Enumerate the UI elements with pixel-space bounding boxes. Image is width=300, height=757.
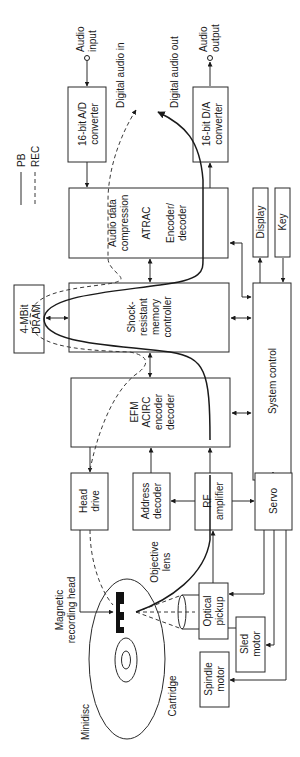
da-converter-block: 16-bit D/A converter <box>193 87 228 162</box>
audio-output-label-2: output <box>210 24 221 52</box>
svg-text:Address: Address <box>140 483 151 520</box>
objective-lens-icon <box>136 595 199 629</box>
svg-text:drive: drive <box>90 490 101 512</box>
head-drive-block: Head drive <box>71 473 108 530</box>
output-jack-icon <box>208 56 213 61</box>
display-block: Display <box>253 188 268 257</box>
key-block: Key <box>275 188 290 257</box>
svg-text:16-bit D/A: 16-bit D/A <box>201 101 212 146</box>
objective-lens-label-1: Objective <box>149 541 160 583</box>
svg-text:resistant: resistant <box>138 298 149 336</box>
svg-text:16-bit A/D: 16-bit A/D <box>77 102 88 146</box>
minidisc-label: Minidisc <box>80 704 91 740</box>
minidisc-block-diagram: PB REC Audio input Audio output Digital … <box>0 0 300 757</box>
objective-lens-label-2: lens <box>161 553 172 571</box>
svg-text:Servo: Servo <box>268 488 279 515</box>
servo-block: Servo <box>255 473 292 530</box>
rec-head-path <box>90 530 113 605</box>
svg-text:converter: converter <box>213 102 224 144</box>
memory-controller-block: Shock- resistant memory controller <box>69 283 229 352</box>
svg-text:compression: compression <box>119 195 130 252</box>
svg-text:decoder: decoder <box>177 204 188 241</box>
svg-text:controller: controller <box>162 296 173 338</box>
svg-text:pickup: pickup <box>214 596 225 625</box>
system-control-block: System control <box>253 283 291 480</box>
svg-text:RF: RF <box>202 494 213 507</box>
svg-text:Shock-: Shock- <box>126 301 137 332</box>
svg-text:ATRAC: ATRAC <box>141 206 152 239</box>
efm-acirc-block: EFM ACIRC encoder decoder <box>71 378 230 447</box>
audio-input-label-2: input <box>87 30 98 52</box>
audio-input-terminal: Audio input <box>75 26 98 86</box>
minidisc-icon <box>89 579 165 739</box>
svg-text:Spindle: Spindle <box>203 662 214 696</box>
magnetic-head-label-2: recording head <box>66 577 77 644</box>
address-decoder-block: Address decoder <box>133 473 170 530</box>
svg-text:motor: motor <box>251 631 262 657</box>
svg-text:Audio data: Audio data <box>107 199 118 247</box>
svg-text:Sled: Sled <box>239 634 250 654</box>
svg-text:Display: Display <box>255 206 266 239</box>
svg-text:amplifier: amplifier <box>214 481 225 519</box>
dram-block: 4-MBit DRAM <box>14 285 44 353</box>
input-jack-icon <box>85 56 90 61</box>
svg-text:decoder: decoder <box>152 482 163 519</box>
atrac-block: Audio data compression ATRAC Encoder/ de… <box>69 188 228 258</box>
svg-text:EFM: EFM <box>129 401 140 422</box>
svg-text:Optical: Optical <box>202 595 213 626</box>
svg-text:converter: converter <box>89 102 100 144</box>
legend: PB REC <box>16 146 41 205</box>
svg-text:motor: motor <box>215 666 226 692</box>
sled-motor-block: Sled motor <box>236 617 265 672</box>
ad-converter-block: 16-bit A/D converter <box>68 87 106 162</box>
svg-text:System control: System control <box>267 348 278 414</box>
digital-audio-in-label: Digital audio in <box>115 42 126 108</box>
rf-amplifier-block: RF amplifier <box>195 473 232 530</box>
magnetic-head-label-1: Magnetic <box>54 590 65 631</box>
svg-text:ACIRC: ACIRC <box>141 396 152 427</box>
audio-input-label-1: Audio <box>75 26 86 52</box>
audio-output-terminal: Audio output <box>198 24 221 86</box>
magnetic-head-icon <box>116 592 124 633</box>
svg-text:decoder: decoder <box>165 393 176 430</box>
legend-pb: PB <box>16 153 27 167</box>
audio-output-label-1: Audio <box>198 26 209 52</box>
svg-text:4-MBit: 4-MBit <box>19 304 30 333</box>
legend-rec: REC <box>30 146 41 167</box>
optical-pickup-block: Optical pickup <box>199 583 228 639</box>
svg-text:Encoder/: Encoder/ <box>165 203 176 243</box>
cartridge-label: Cartridge <box>167 675 178 717</box>
svg-text:Head: Head <box>78 489 89 513</box>
svg-text:encoder: encoder <box>153 393 164 430</box>
spindle-motor-block: Spindle motor <box>200 652 229 707</box>
digital-audio-out-label: Digital audio out <box>169 36 180 108</box>
svg-text:memory: memory <box>150 299 161 335</box>
svg-text:Key: Key <box>277 213 288 230</box>
